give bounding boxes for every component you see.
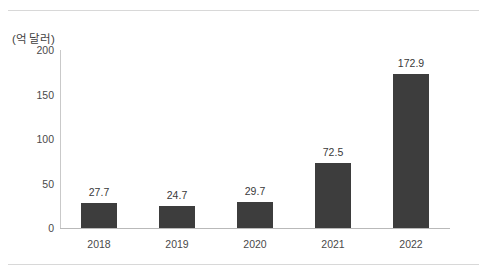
- bar[interactable]: [237, 202, 273, 228]
- bar-value-label: 172.9: [372, 57, 450, 69]
- bar-value-label: 29.7: [216, 185, 294, 197]
- bar[interactable]: [159, 206, 195, 228]
- x-axis-tick-label: 2022: [372, 238, 450, 250]
- bar-group: 24.72019: [138, 0, 216, 275]
- y-axis-tick-label: 150: [36, 89, 54, 101]
- bar-series-container: 27.7201824.7201929.7202072.52021172.9202…: [60, 0, 450, 275]
- bar-group: 72.52021: [294, 0, 372, 275]
- bar-group: 27.72018: [60, 0, 138, 275]
- x-axis-tick-label: 2019: [138, 238, 216, 250]
- x-axis-tick-label: 2021: [294, 238, 372, 250]
- bar-value-label: 72.5: [294, 146, 372, 158]
- y-axis-tick-label: 0: [48, 222, 54, 234]
- bar-group: 172.92022: [372, 0, 450, 275]
- bar-value-label: 24.7: [138, 189, 216, 201]
- bar-group: 29.72020: [216, 0, 294, 275]
- bar[interactable]: [393, 74, 429, 228]
- bar[interactable]: [81, 203, 117, 228]
- y-axis-tick-label: 50: [42, 178, 54, 190]
- y-axis-tick-labels: 050100150200: [0, 0, 54, 275]
- y-axis-tick-label: 100: [36, 133, 54, 145]
- bar[interactable]: [315, 163, 351, 228]
- x-axis-tick-label: 2018: [60, 238, 138, 250]
- y-axis-tick-label: 200: [36, 44, 54, 56]
- bar-chart-figure: (억 달러) 050100150200 27.7201824.7201929.7…: [0, 0, 487, 275]
- x-axis-tick-label: 2020: [216, 238, 294, 250]
- bar-value-label: 27.7: [60, 186, 138, 198]
